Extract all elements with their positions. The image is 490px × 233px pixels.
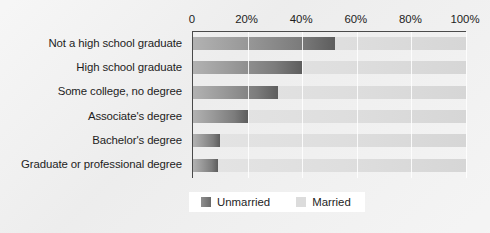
category-label: Associate's degree (88, 105, 182, 129)
category-label: Graduate or professional degree (21, 153, 182, 177)
legend-swatch-unmarried (201, 197, 211, 207)
legend-swatch-married (296, 197, 306, 207)
x-axis-tick-label: 40% (290, 13, 313, 25)
bar-segment-unmarried (193, 159, 218, 172)
bar-row (193, 129, 466, 153)
x-axis-tick-label: 80% (399, 13, 422, 25)
x-axis-tick-label: 60% (344, 13, 367, 25)
bar-segment-married (193, 134, 466, 147)
legend-label: Married (312, 196, 351, 208)
bar-row (193, 56, 466, 80)
bar-segment-unmarried (193, 86, 278, 99)
gridline (466, 32, 467, 178)
x-axis-tick-label: 100% (450, 13, 479, 25)
bar-chart-figure: Not a high school graduateHigh school gr… (0, 0, 490, 233)
value-axis: 020%40%60%80%100% (192, 13, 465, 29)
legend-item: Unmarried (201, 196, 270, 208)
chart-legend: UnmarriedMarried (189, 192, 365, 212)
x-axis-tick-label: 0 (189, 13, 195, 25)
bar-row (193, 154, 466, 178)
bar-row (193, 105, 466, 129)
category-axis: Not a high school graduateHigh school gr… (0, 32, 188, 177)
bar-segment-unmarried (193, 37, 335, 50)
category-label: High school graduate (76, 56, 182, 80)
legend-item: Married (296, 196, 351, 208)
category-label: Bachelor's degree (92, 129, 182, 153)
bar-segment-unmarried (193, 110, 248, 123)
bar-segment-married (193, 159, 466, 172)
x-axis-tick-label: 20% (235, 13, 258, 25)
category-label: Some college, no degree (58, 80, 182, 104)
bar-segment-unmarried (193, 134, 220, 147)
plot-area (192, 31, 466, 178)
bar-segment-unmarried (193, 61, 302, 74)
category-label: Not a high school graduate (48, 32, 182, 56)
bar-row (193, 81, 466, 105)
legend-label: Unmarried (217, 196, 270, 208)
bar-row (193, 32, 466, 56)
